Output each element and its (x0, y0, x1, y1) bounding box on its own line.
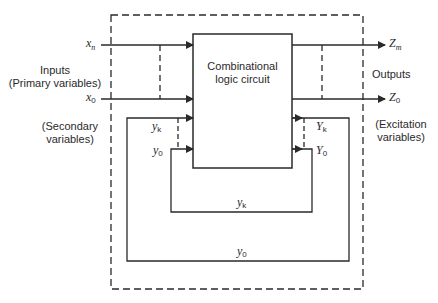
outputs-label: Outputs (372, 68, 411, 81)
secondary-variables-label: (Secondary variables) (30, 120, 110, 146)
output-zm-label: Zm (389, 37, 401, 54)
excitation-yk-label: Yk (316, 120, 327, 136)
output-z0-label: Z0 (389, 91, 400, 107)
feedback-loop-outer (127, 118, 349, 261)
secondary-y0-label: y0 (153, 144, 163, 160)
input-xn-label: xn (86, 37, 95, 54)
inputs-label: Inputs (Primary variables) (0, 64, 110, 90)
feedback-yk-label: yk (237, 196, 246, 212)
block-label-line1: Combinational (193, 60, 292, 73)
excitation-variables-label: (Excitation variables) (364, 118, 438, 144)
combinational-logic-block (193, 34, 292, 168)
block-label: Combinational logic circuit (193, 60, 292, 86)
input-x0-label: x0 (86, 91, 96, 107)
sequential-circuit-diagram (0, 0, 438, 303)
excitation-y0-label: Y0 (316, 144, 327, 160)
feedback-y0-label: y0 (237, 245, 247, 261)
primary-variables-label: (Primary variables) (0, 77, 110, 90)
block-label-line2: logic circuit (193, 73, 292, 86)
inputs-title: Inputs (0, 64, 110, 77)
secondary-yk-label: yk (152, 120, 161, 136)
